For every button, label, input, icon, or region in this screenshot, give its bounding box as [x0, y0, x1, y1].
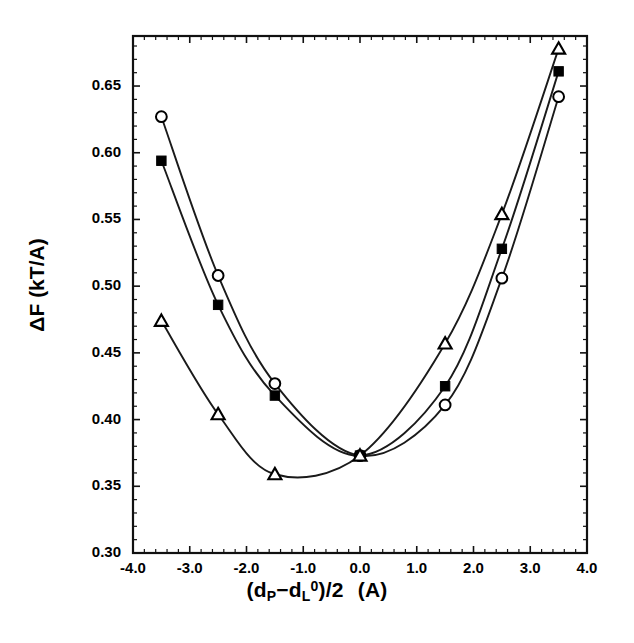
plot-frame [133, 36, 587, 553]
x-tick-label: -3.0 [160, 559, 220, 576]
y-axis-title: ΔF (kT/A) [25, 115, 59, 455]
x-tick-label: 4.0 [557, 559, 617, 576]
x-tick-label: -4.0 [103, 559, 163, 576]
marker-circle-open [213, 270, 224, 281]
x-axis-title-sub-p: P [267, 588, 277, 604]
y-tick-label: 0.65 [59, 76, 121, 93]
markers-filled-square-series [157, 67, 564, 461]
x-axis-title-close: )/2 [319, 578, 344, 601]
x-axis-title-d-l: d [289, 578, 302, 601]
x-tick-label: 1.0 [387, 559, 447, 576]
marker-circle-open [440, 400, 451, 411]
y-tick-label: 0.50 [59, 276, 121, 293]
x-axis-title-minus: − [276, 578, 288, 601]
x-axis-title-open: (d [247, 578, 267, 601]
marker-triangle-open [495, 208, 508, 219]
marker-circle-open [553, 91, 564, 102]
marker-triangle-open [439, 337, 452, 348]
marker-square-filled [440, 382, 449, 391]
marker-triangle-open [212, 408, 225, 419]
x-tick-label: 0.0 [330, 559, 390, 576]
x-tick-label: 2.0 [444, 559, 504, 576]
marker-square-filled [213, 300, 222, 309]
y-tick-label: 0.45 [59, 343, 121, 360]
markers-open-triangle-series [155, 42, 565, 479]
marker-square-filled [157, 156, 166, 165]
y-tick-label: 0.60 [59, 143, 121, 160]
marker-square-filled [554, 67, 563, 76]
axis-ticks [133, 36, 587, 553]
marker-circle-open [156, 111, 167, 122]
x-tick-label: -2.0 [217, 559, 277, 576]
x-axis-title-sup-zero: 0 [311, 578, 319, 594]
curve-filled-square-series [161, 71, 558, 455]
y-tick-label: 0.30 [59, 543, 121, 560]
data-markers [155, 42, 565, 479]
x-axis-title-sub-l: L [302, 588, 311, 604]
y-tick-label: 0.55 [59, 209, 121, 226]
y-axis-title-text: ΔF (kT/A) [25, 238, 49, 331]
marker-circle-open [269, 378, 280, 389]
x-tick-label: -1.0 [273, 559, 333, 576]
y-tick-label: 0.40 [59, 410, 121, 427]
x-axis-unit: (A) [358, 578, 388, 601]
chart-figure: ΔF (kT/A) (dP−dL0)/2(A) 0.300.350.400.45… [0, 0, 634, 643]
x-tick-label: 3.0 [500, 559, 560, 576]
marker-square-filled [497, 244, 506, 253]
frame-rect [133, 36, 587, 553]
marker-triangle-open [155, 314, 168, 325]
marker-circle-open [496, 273, 507, 284]
markers-open-circle-series [156, 91, 564, 461]
x-axis-title: (dP−dL0)/2(A) [0, 578, 634, 604]
y-tick-label: 0.35 [59, 476, 121, 493]
marker-square-filled [270, 391, 279, 400]
marker-triangle-open [552, 42, 565, 53]
